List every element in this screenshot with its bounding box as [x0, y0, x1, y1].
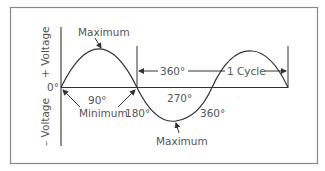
label-180: 180° — [125, 107, 150, 119]
sine-wave-diagram: Maximum 90° Minimum 180° 270° 360° Maxim… — [0, 0, 325, 171]
label-top-maximum: Maximum — [78, 26, 130, 38]
label-bottom-maximum: Maximum — [156, 135, 208, 147]
label-origin: 0° — [47, 81, 59, 93]
pointer-minimum-right — [118, 90, 135, 107]
pointer-top-maximum — [95, 38, 101, 48]
label-cycle: 1 Cycle — [227, 65, 266, 77]
label-270: 270° — [167, 92, 192, 104]
label-90: 90° — [88, 94, 107, 106]
label-negative-voltage: – Voltage — [39, 98, 51, 146]
pointer-minimum-left — [63, 90, 80, 107]
pointer-bottom-maximum — [176, 123, 179, 133]
label-minimum: Minimum — [79, 107, 128, 119]
label-360-span: 360° — [160, 65, 185, 77]
label-360-wave: 360° — [200, 107, 225, 119]
label-positive-voltage: + Voltage — [39, 26, 51, 78]
